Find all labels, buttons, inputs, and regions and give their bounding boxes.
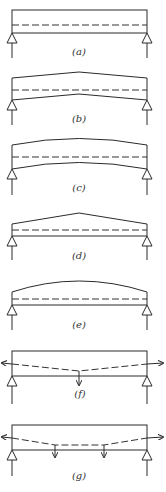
beam [12,425,147,450]
panel-b: (b) [7,72,152,125]
right-support-icon [142,376,152,386]
tendon [12,364,147,371]
right-support-icon [142,100,152,110]
panel-d: (d) [7,213,152,261]
right-support-icon [142,169,152,179]
tendon [12,438,147,445]
left-support-icon [7,305,17,315]
panel-label: (g) [72,470,86,481]
panel-label: (a) [72,46,86,57]
right-support-icon [142,33,152,43]
panel-label: (e) [72,319,86,330]
right-support-icon [142,305,152,315]
beam-top [12,72,147,78]
panel-label: (f) [74,388,86,399]
beam [12,10,147,33]
left-support-icon [7,100,17,110]
panel-label: (d) [72,250,86,261]
left-support-icon [7,376,17,386]
left-support-icon [7,236,17,246]
left-force-arrow-icon [2,363,12,364]
panel-c: (c) [7,139,152,196]
right-force-arrow-icon [147,437,163,438]
beam-top [12,139,147,146]
beam-bottom [12,94,147,100]
panel-f: (f) [2,351,163,404]
left-support-icon [7,169,17,179]
left-force-arrow-icon [2,437,12,438]
right-support-icon [142,236,152,246]
left-support-icon [7,450,17,460]
right-force-arrow-icon [147,363,163,364]
left-support-icon [7,33,17,43]
panel-a: (a) [7,10,152,58]
panel-g: (g) [2,425,163,481]
panel-label: (c) [72,182,86,193]
right-support-icon [142,450,152,460]
prestressed-beam-figure: (a) (b) (c) (d) [0,0,166,492]
panel-e: (e) [7,281,152,330]
beam-bottom [12,163,147,170]
beam-top [12,281,147,292]
beam-top [12,213,147,224]
panel-label: (b) [72,113,86,124]
